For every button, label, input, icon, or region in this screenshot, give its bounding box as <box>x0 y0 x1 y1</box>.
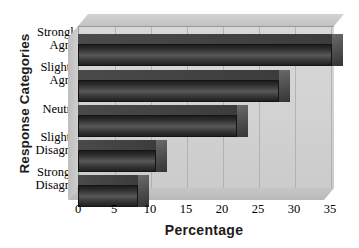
bar-end-cap <box>332 34 343 66</box>
bar-front-face <box>78 115 237 137</box>
x-tick-label-15: 15 <box>171 202 201 217</box>
x-tick-label-0: 0 <box>63 202 93 217</box>
plot-top-face <box>78 14 344 26</box>
bar-front-face <box>78 80 279 102</box>
bar-strongly-agree <box>78 34 332 56</box>
plot-area <box>78 14 344 200</box>
bar-slightly-agree <box>78 70 279 92</box>
bar-strongly-disagree <box>78 175 138 197</box>
x-tick-label-35: 35 <box>315 202 345 217</box>
bar-chart: Response Categories Strongly Agree Sligh… <box>0 0 359 248</box>
x-axis-title: Percentage <box>78 222 330 238</box>
bar-neutral <box>78 105 237 127</box>
bar-end-cap <box>237 105 248 137</box>
bar-front-face <box>78 150 156 172</box>
x-tick-label-30: 30 <box>279 202 309 217</box>
bar-front-face <box>78 44 332 66</box>
plot-left-wall <box>68 26 78 200</box>
x-axis-tick-labels: 0 5 10 15 20 25 30 35 <box>0 202 359 218</box>
x-tick-label-25: 25 <box>243 202 273 217</box>
bar-end-cap <box>279 70 290 102</box>
x-tick-label-10: 10 <box>135 202 165 217</box>
bar-series <box>78 26 344 188</box>
x-tick-label-5: 5 <box>99 202 129 217</box>
x-tick-label-20: 20 <box>207 202 237 217</box>
bar-end-cap <box>156 140 167 172</box>
plot-top-slab <box>78 14 344 26</box>
bar-slightly-disagree <box>78 140 156 162</box>
